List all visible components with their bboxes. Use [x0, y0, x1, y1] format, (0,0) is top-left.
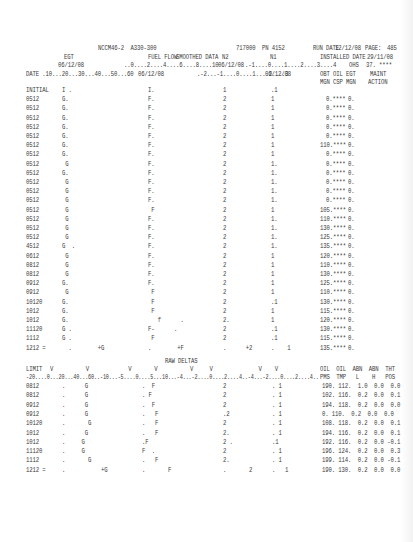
- page-label: PAGE:: [365, 45, 381, 53]
- egt-delta-mark: . G: [62, 411, 88, 419]
- n2-plot-mark: 2: [223, 105, 226, 113]
- delta-row-date: 0812: [26, 392, 39, 400]
- egt-plot-mark: G: [62, 234, 69, 242]
- n2-plot-mark: 2: [223, 299, 226, 307]
- n2-plot-mark: 2: [223, 225, 226, 233]
- ff-plot-mark: F.: [148, 179, 155, 187]
- n2-plot-mark: 1: [223, 87, 226, 95]
- row-date: 1212 =: [26, 345, 46, 353]
- egt-plot-mark: G: [62, 271, 69, 279]
- n2-plot-mark: 2: [223, 243, 226, 251]
- egt-plot-mark: G.: [62, 133, 69, 141]
- row-date: 0512: [26, 216, 39, 224]
- oil-csp-value: 0.: [348, 289, 355, 297]
- maint-header-2: ACTION: [368, 79, 388, 87]
- row-date: 0512: [26, 124, 39, 132]
- ff-delta-mark: F .: [142, 448, 155, 456]
- egt-delta-mark: . +G: [62, 467, 108, 475]
- egt-plot-mark: G: [62, 225, 69, 233]
- egt-plot-mark: G .: [62, 243, 75, 251]
- n1-scale: .-1....0....1....2....3....4: [245, 62, 336, 70]
- ff-plot-mark: F.: [148, 133, 155, 141]
- obt-mgn-value: 135.****: [320, 345, 346, 353]
- n1-plot-mark: 1: [271, 105, 274, 113]
- n2-plot-mark: 2: [223, 133, 226, 141]
- n2-plot-mark: 2: [223, 151, 226, 159]
- egt-plot-mark: G.: [62, 317, 69, 325]
- egt-scale: DATE .10...20...30...40...50...60: [26, 71, 133, 79]
- ff-delta-mark: .F: [142, 439, 149, 447]
- obt-mgn-value: 0.****: [326, 197, 346, 205]
- ff-plot-mark: F.: [148, 115, 155, 123]
- ff-delta-mark: . F: [142, 383, 155, 391]
- n2-plot-mark: 2: [223, 234, 226, 242]
- part-number: PN 4152: [262, 45, 285, 53]
- oil-csp-value: 0.: [348, 326, 355, 334]
- page-edge: [401, 0, 413, 542]
- report-code: 717000: [236, 45, 256, 53]
- row-date: INITIAL: [26, 87, 49, 95]
- ff-plot-mark: F.: [148, 188, 155, 196]
- ff-delta-mark: . F: [142, 457, 158, 465]
- ohs-value: 37.: [366, 62, 376, 70]
- oil-csp-value: 0.: [348, 253, 355, 261]
- row-date: 11120: [26, 326, 42, 334]
- n1-plot-mark: 1: [271, 262, 274, 270]
- n1-plot-mark: 1: [271, 115, 274, 123]
- obt-mgn-value: 115.****: [320, 335, 346, 343]
- obt-mgn-value: 0.****: [326, 188, 346, 196]
- ff-delta-mark: . F: [142, 402, 155, 410]
- ff-scale: ..0....2....4....6....8....10: [124, 62, 218, 70]
- oil-csp-value: 0.: [348, 207, 355, 215]
- n1-delta-mark: . 1: [272, 383, 282, 391]
- oil-values: 194. 118. 0.2 0.0 0.0: [322, 402, 400, 410]
- row-date: 0512: [26, 170, 39, 178]
- n2-plot-mark: 2: [223, 170, 226, 178]
- row-date: 0512: [26, 96, 39, 104]
- n1-plot-mark: 1: [271, 289, 274, 297]
- oil-csp-value: 0.: [348, 133, 355, 141]
- obt-mgn-value: 115.****: [320, 308, 346, 316]
- ff-plot-mark: F.: [148, 170, 155, 178]
- oil-csp-value: 0.: [348, 124, 355, 132]
- n1-plot-mark: 1.: [271, 225, 278, 233]
- oil-csp-value: 0.: [348, 161, 355, 169]
- oil-csp-value: 0.: [348, 188, 355, 196]
- obt-mgn-value: 0.****: [326, 115, 346, 123]
- oil-csp-value: 0.: [348, 335, 355, 343]
- egt-plot-mark: G.: [62, 280, 69, 288]
- ff-plot-mark: I.: [148, 87, 155, 95]
- delta-row-date: 0812: [26, 383, 39, 391]
- egt-plot-mark: G: [62, 197, 69, 205]
- row-date: 0512: [26, 207, 39, 215]
- row-date: 4512: [26, 243, 39, 251]
- ff-plot-mark: F: [148, 289, 155, 297]
- obt-mgn-value: 0.****: [326, 179, 346, 187]
- egt-plot-mark: G: [62, 207, 69, 215]
- row-date: 0512: [26, 188, 39, 196]
- n2-plot-mark: 2: [223, 326, 226, 334]
- delta-row-date: 1112: [26, 457, 39, 465]
- n2-plot-mark: 2: [223, 216, 226, 224]
- oil-csp-value: 0.: [348, 142, 355, 150]
- n1-plot-mark: 1: [271, 96, 274, 104]
- oil-csp-value: 0.: [348, 151, 355, 159]
- n2-plot-mark: 2: [223, 142, 226, 150]
- n1-delta-mark: . 1: [272, 420, 282, 428]
- obt-mgn-value: 110.****: [320, 262, 346, 270]
- n1-plot-mark: 1: [271, 124, 274, 132]
- egt-plot-mark: G.: [62, 151, 69, 159]
- n1-delta-mark: . 1: [272, 448, 282, 456]
- ff-plot-mark: F.: [148, 225, 155, 233]
- ff-plot-mark: F.: [148, 105, 155, 113]
- ff-plot-mark: f .: [148, 317, 184, 325]
- ff-plot-mark: . +F: [148, 345, 184, 353]
- n2-plot-mark: 2: [223, 161, 226, 169]
- egt-plot-mark: G.: [62, 170, 69, 178]
- delta-row-date: 10120: [26, 420, 42, 428]
- ff-plot-mark: F.: [148, 280, 155, 288]
- row-date: 0612: [26, 253, 39, 261]
- oil-csp-value: 0.: [348, 280, 355, 288]
- egt-plot-mark: G.: [62, 105, 69, 113]
- egt-plot-mark: G.: [62, 299, 69, 307]
